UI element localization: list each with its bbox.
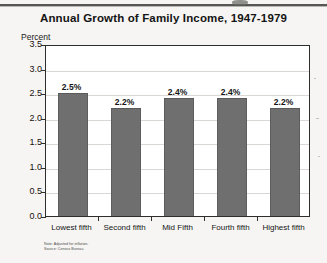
chart-title: Annual Growth of Family Income, 1947-197…	[0, 12, 327, 24]
plot-area	[45, 45, 310, 217]
scan-speckle	[314, 78, 316, 79]
scan-speckle	[318, 156, 320, 157]
scan-artifact-blob	[232, 0, 248, 5]
bar	[111, 108, 141, 216]
x-tick-mark	[257, 217, 258, 221]
bar-value-label: 2.2%	[100, 97, 150, 107]
y-tick-label: 0.0	[2, 211, 42, 221]
footnote-note: Note: Adjusted for inflation.	[44, 242, 88, 247]
y-tick-mark	[41, 217, 46, 218]
footnote-source: Source: Census Bureau.	[44, 247, 88, 252]
gridline	[46, 71, 309, 72]
bar-value-label: 2.4%	[206, 87, 256, 97]
bar	[164, 98, 194, 216]
x-tick-mark	[98, 217, 99, 221]
bar	[270, 108, 300, 216]
x-tick-mark	[151, 217, 152, 221]
bar	[217, 98, 247, 216]
y-tick-label: 1.0	[2, 162, 42, 172]
bar-value-label: 2.5%	[47, 82, 97, 92]
y-tick-label: 2.0	[2, 113, 42, 123]
y-tick-label: 2.5	[2, 88, 42, 98]
y-tick-label: 3.0	[2, 64, 42, 74]
bar-value-label: 2.2%	[259, 97, 309, 107]
y-tick-label: 3.5	[2, 39, 42, 49]
scan-artifact-line-secondary	[0, 6, 327, 7]
scan-speckle	[316, 118, 319, 119]
y-tick-label: 0.5	[2, 186, 42, 196]
y-tick-label: 1.5	[2, 137, 42, 147]
x-tick-mark	[204, 217, 205, 221]
bar-value-label: 2.4%	[153, 87, 203, 97]
chart-footnote: Note: Adjusted for inflation. Source: Ce…	[44, 242, 88, 251]
bar	[58, 93, 88, 216]
x-category-label: Highest fifth	[244, 223, 324, 232]
